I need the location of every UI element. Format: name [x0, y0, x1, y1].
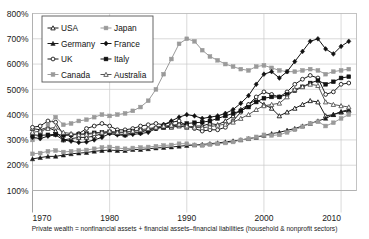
data-point-marker [100, 113, 104, 117]
data-point-marker [146, 99, 150, 103]
data-point-marker [77, 149, 81, 153]
data-point-marker [139, 146, 143, 150]
data-point-marker [208, 143, 212, 147]
data-point-marker [254, 100, 258, 104]
data-point-marker [208, 119, 212, 123]
data-point-marker [115, 113, 119, 117]
data-point-marker [108, 145, 112, 149]
data-point-marker [139, 105, 143, 109]
data-point-marker [239, 109, 243, 113]
data-point-marker [262, 133, 266, 137]
data-point-marker [108, 114, 112, 118]
legend-item-label: Italy [114, 54, 130, 64]
legend-item-label: Germany [61, 39, 96, 49]
data-point-marker [185, 37, 189, 41]
legend-item-label: USA [61, 23, 79, 33]
data-point-marker [185, 142, 189, 146]
data-point-marker [193, 39, 197, 43]
data-point-marker [285, 130, 289, 134]
data-point-marker [216, 128, 220, 132]
x-axis-tick-label: 1970 [33, 213, 52, 223]
data-point-marker [200, 120, 204, 124]
data-point-marker [177, 142, 181, 146]
data-point-marker [316, 79, 320, 83]
data-point-marker [331, 121, 335, 125]
data-point-marker [254, 95, 258, 99]
data-point-marker [177, 42, 181, 46]
data-point-marker [239, 138, 243, 142]
data-point-marker [270, 95, 274, 99]
data-point-marker [216, 117, 220, 121]
data-point-marker [85, 148, 89, 152]
data-point-marker [277, 95, 281, 99]
data-point-marker [308, 74, 312, 78]
x-axis-tick-label: 2010 [322, 213, 341, 223]
y-axis-tick-label: 100% [7, 186, 29, 196]
data-point-marker [208, 55, 212, 59]
data-point-marker [277, 68, 281, 72]
legend-item-label: Japan [114, 23, 137, 33]
data-point-marker [231, 65, 235, 69]
data-point-marker [331, 80, 335, 84]
data-point-marker [69, 122, 73, 126]
data-point-marker [200, 144, 204, 148]
data-point-marker [339, 68, 343, 72]
y-axis-tick-label: 700% [7, 34, 29, 44]
data-point-marker [316, 68, 320, 72]
data-point-marker [38, 151, 42, 155]
data-point-marker [38, 133, 42, 137]
data-point-marker [46, 119, 50, 123]
x-axis-tick-label: 1990 [177, 213, 196, 223]
chart-legend: USAJapanGermanyFranceUKItalyCanadaAustra… [42, 16, 153, 82]
data-point-marker [46, 133, 50, 137]
data-point-marker [92, 115, 96, 119]
y-axis-tick-label: 400% [7, 110, 29, 120]
legend-item-label: UK [61, 54, 73, 64]
data-point-marker [316, 120, 320, 124]
data-point-marker [92, 124, 96, 128]
data-point-marker [216, 58, 220, 62]
data-point-marker [308, 67, 312, 71]
data-point-marker [216, 142, 220, 146]
data-point-marker [254, 65, 258, 69]
legend-item-label: France [114, 39, 140, 49]
data-point-marker [301, 77, 305, 81]
data-point-marker [331, 70, 335, 74]
chart-caption: Private wealth = nonfinancial assets + f… [32, 225, 338, 233]
data-point-marker [324, 72, 328, 76]
data-point-marker [331, 90, 335, 94]
data-point-marker [247, 105, 251, 109]
data-point-marker [154, 87, 158, 91]
data-point-marker [61, 150, 65, 154]
data-point-marker [324, 82, 328, 86]
data-point-marker [293, 82, 297, 86]
data-point-marker [301, 68, 305, 72]
data-point-marker [347, 81, 351, 85]
data-point-marker [100, 146, 104, 150]
data-point-marker [54, 120, 58, 124]
legend-item-label: Australia [114, 70, 147, 80]
data-point-marker [193, 143, 197, 147]
data-point-marker [339, 82, 343, 86]
data-point-marker [277, 133, 281, 137]
data-point-marker [169, 143, 173, 147]
data-point-marker [51, 57, 55, 61]
data-point-marker [193, 121, 197, 125]
data-point-marker [254, 135, 258, 139]
data-point-marker [347, 113, 351, 117]
y-axis-tick-label: 200% [7, 160, 29, 170]
data-point-marker [239, 67, 243, 71]
data-point-marker [38, 124, 42, 128]
data-point-marker [85, 118, 89, 122]
data-point-marker [100, 122, 104, 126]
data-point-marker [115, 146, 119, 150]
data-point-marker [247, 68, 251, 72]
data-point-marker [54, 115, 58, 119]
y-axis-tick-label: 500% [7, 85, 29, 95]
data-point-marker [162, 144, 166, 148]
data-point-marker [146, 145, 150, 149]
data-point-marker [131, 146, 135, 150]
data-point-marker [339, 117, 343, 121]
data-point-marker [247, 137, 251, 141]
data-point-marker [262, 90, 266, 94]
